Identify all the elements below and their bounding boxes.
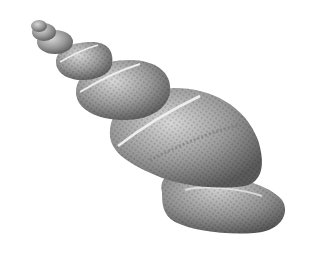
shell-apex	[31, 20, 47, 32]
seashell-illustration	[0, 0, 317, 265]
